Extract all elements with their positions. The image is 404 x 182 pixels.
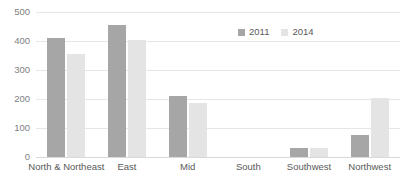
chart-legend: 20112014 <box>238 27 314 37</box>
bar-2011 <box>108 25 126 157</box>
y-axis-tick-label: 400 <box>0 36 30 46</box>
bar-group <box>108 12 146 157</box>
x-axis-tick-label: East <box>117 161 136 172</box>
legend-label: 2011 <box>249 27 269 37</box>
y-axis-tick-label: 100 <box>0 123 30 133</box>
bar-2011 <box>169 96 187 157</box>
bar-2014 <box>371 98 389 157</box>
bar-group <box>47 12 85 157</box>
y-axis-tick-label: 200 <box>0 94 30 104</box>
bar-2014 <box>310 148 328 157</box>
y-axis-tick-label: 0 <box>0 152 30 162</box>
bar-2011 <box>47 38 65 157</box>
legend-swatch-icon <box>281 29 288 36</box>
x-axis-tick-label: Northwest <box>348 161 391 172</box>
bar-2014 <box>67 54 85 157</box>
x-axis-tick-label: Mid <box>180 161 195 172</box>
y-axis-tick-label: 300 <box>0 65 30 75</box>
legend-swatch-icon <box>238 29 245 36</box>
bar-2011 <box>290 148 308 157</box>
x-axis-tick-label: Southwest <box>287 161 331 172</box>
legend-item[interactable]: 2014 <box>281 27 313 37</box>
x-axis-tick-label: South <box>236 161 261 172</box>
bar-2011 <box>351 135 369 157</box>
x-axis-tick-label: North & Northeast <box>28 161 104 172</box>
gridline <box>36 157 400 158</box>
legend-label: 2014 <box>292 27 313 37</box>
y-axis-tick-label: 500 <box>0 7 30 17</box>
bar-group <box>169 12 207 157</box>
bar-chart: 0100200300400500 North & NortheastEastMi… <box>0 0 404 182</box>
legend-item[interactable]: 2011 <box>238 27 269 37</box>
bar-2014 <box>128 40 146 157</box>
bar-2014 <box>189 103 207 157</box>
bar-group <box>351 12 389 157</box>
plot-area <box>36 12 400 157</box>
